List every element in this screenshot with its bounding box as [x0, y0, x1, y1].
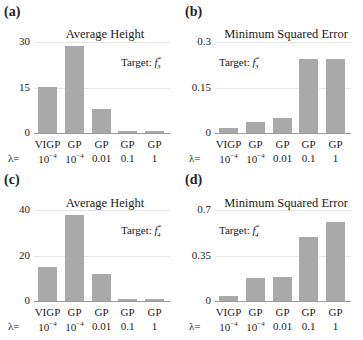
- lambda-value: 1: [140, 152, 170, 164]
- lambda-value: 10−4: [214, 152, 244, 165]
- bar: [273, 277, 292, 301]
- x-category-label: GP: [321, 306, 351, 318]
- y-tick-label: 0: [0, 126, 30, 138]
- bar: [65, 46, 84, 133]
- chart-panel-d: (d)Minimum Squared Error0.70.350Target: …: [181, 168, 362, 338]
- bar: [65, 215, 84, 301]
- target-function: f*4: [155, 224, 161, 236]
- y-tick-label: 40: [0, 203, 30, 215]
- x-axis: [215, 133, 351, 134]
- bar: [326, 59, 345, 133]
- x-category-label: GP: [241, 138, 271, 150]
- x-axis: [34, 133, 170, 134]
- chart-title: Minimum Squared Error: [221, 196, 351, 211]
- x-axis: [34, 301, 170, 302]
- bar: [92, 274, 111, 301]
- chart-panel-b: (b)Minimum Squared Error0.30.150Target: …: [181, 0, 362, 170]
- bar: [273, 118, 292, 133]
- y-tick-label: 0.7: [181, 203, 211, 215]
- lambda-value: 0.1: [113, 152, 143, 164]
- lambda-value: 0.1: [113, 320, 143, 332]
- lambda-label: λ=: [189, 152, 201, 164]
- bar: [38, 267, 57, 301]
- lambda-label: λ=: [8, 152, 20, 164]
- target-label: Target:: [219, 224, 250, 236]
- chart-title: Average Height: [40, 27, 170, 42]
- x-category-label: GP: [60, 306, 90, 318]
- lambda-value: 1: [140, 320, 170, 332]
- lambda-value: 10−4: [241, 152, 271, 165]
- x-category-label: GP: [321, 138, 351, 150]
- bar: [246, 278, 265, 301]
- target-label: Target:: [121, 224, 152, 236]
- chart-title: Minimum Squared Error: [221, 27, 351, 42]
- target-annotation: Target: f*3: [219, 55, 259, 71]
- x-axis: [215, 301, 351, 302]
- lambda-label: λ=: [189, 320, 201, 332]
- target-label: Target:: [219, 56, 250, 68]
- x-category-label: GP: [140, 306, 170, 318]
- x-category-label: GP: [113, 306, 143, 318]
- target-function: f*4: [253, 224, 259, 236]
- lambda-value: 10−4: [60, 152, 90, 165]
- gridline: [34, 42, 170, 43]
- target-annotation: Target: f*4: [219, 223, 259, 239]
- bar: [246, 122, 265, 133]
- x-category-label: GP: [113, 138, 143, 150]
- lambda-value: 10−4: [33, 320, 63, 333]
- y-tick-label: 0: [181, 294, 211, 306]
- panel-label: (b): [185, 4, 202, 20]
- x-category-label: VIGP: [214, 138, 244, 150]
- gridline: [215, 210, 351, 211]
- target-function: f*3: [253, 56, 259, 68]
- bar: [299, 59, 318, 133]
- y-tick-label: 15: [0, 81, 30, 93]
- lambda-value: 1: [321, 320, 351, 332]
- y-tick-label: 30: [0, 35, 30, 47]
- panel-label: (c): [4, 172, 20, 188]
- lambda-value: 0.1: [294, 152, 324, 164]
- lambda-value: 10−4: [33, 152, 63, 165]
- target-function: f*3: [155, 56, 161, 68]
- chart-panel-c: (c)Average Height40200Target: f*4VIGPGPG…: [0, 168, 181, 338]
- x-category-label: GP: [294, 306, 324, 318]
- gridline: [34, 210, 170, 211]
- x-category-label: VIGP: [33, 138, 63, 150]
- x-category-label: GP: [294, 138, 324, 150]
- lambda-value: 10−4: [241, 320, 271, 333]
- y-tick-label: 0.35: [181, 249, 211, 261]
- gridline: [215, 42, 351, 43]
- lambda-value: 1: [321, 152, 351, 164]
- lambda-label: λ=: [8, 320, 20, 332]
- bar: [326, 222, 345, 301]
- panel-label: (a): [4, 4, 20, 20]
- y-tick-label: 0.15: [181, 81, 211, 93]
- target-annotation: Target: f*4: [121, 223, 161, 239]
- panel-label: (d): [185, 172, 202, 188]
- y-tick-label: 0: [181, 126, 211, 138]
- lambda-value: 0.1: [294, 320, 324, 332]
- lambda-value: 10−4: [214, 320, 244, 333]
- bar: [92, 109, 111, 133]
- y-tick-label: 20: [0, 249, 30, 261]
- chart-title: Average Height: [40, 196, 170, 211]
- gridline: [34, 256, 170, 257]
- x-category-label: GP: [60, 138, 90, 150]
- bar: [299, 237, 318, 301]
- target-label: Target:: [121, 56, 152, 68]
- lambda-value: 10−4: [60, 320, 90, 333]
- x-category-label: GP: [140, 138, 170, 150]
- y-tick-label: 0.3: [181, 35, 211, 47]
- x-category-label: GP: [241, 306, 271, 318]
- x-category-label: VIGP: [33, 306, 63, 318]
- x-category-label: VIGP: [214, 306, 244, 318]
- chart-panel-a: (a)Average Height30150Target: f*3VIGPGPG…: [0, 0, 181, 170]
- target-annotation: Target: f*3: [121, 55, 161, 71]
- y-tick-label: 0: [0, 294, 30, 306]
- bar: [38, 87, 57, 133]
